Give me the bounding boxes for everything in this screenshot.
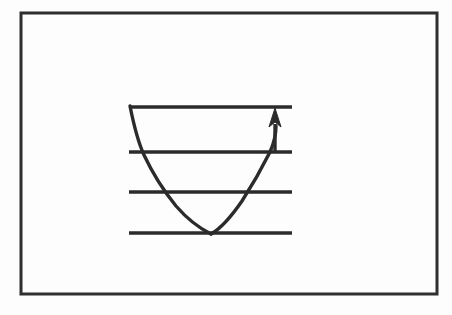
figure-container xyxy=(0,0,452,315)
figure-background xyxy=(0,0,452,315)
energy-level-diagram xyxy=(0,0,452,315)
